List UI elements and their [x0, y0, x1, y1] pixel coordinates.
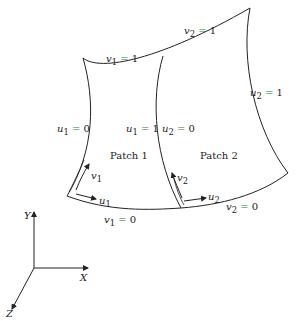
patch2-u-label: u2 — [208, 192, 220, 204]
x-axis-label: X — [80, 273, 87, 283]
patch1-u-arrow — [76, 194, 96, 199]
label-v1-bottom: v1 = 0 — [104, 215, 136, 227]
label-u1-left: u1 = 0 — [57, 124, 90, 136]
label-u2-left: u2 = 0 — [162, 124, 195, 136]
z-axis — [12, 268, 34, 309]
label-u1-right: u1 = 1 — [126, 124, 159, 136]
patch1-label: Patch 1 — [110, 151, 148, 161]
label-v1-top: v1 = 1 — [106, 54, 138, 66]
patch1-u-label: u1 — [99, 196, 111, 208]
patch1-v-label: v1 — [91, 171, 102, 183]
diagram-lines — [0, 0, 297, 321]
patch1-v-arrow — [76, 164, 89, 190]
label-v2-bottom: v2 = 0 — [226, 202, 258, 214]
patch2-label: Patch 2 — [200, 151, 238, 161]
z-axis-label: Z — [6, 309, 13, 319]
patch2-u-arrow — [184, 198, 206, 201]
label-v2-top: v2 = 1 — [184, 26, 216, 38]
patch2-v-label: v2 — [177, 173, 188, 185]
label-u2-right: u2 = 1 — [250, 88, 283, 100]
y-axis-label: Y — [24, 211, 31, 221]
patch-diagram: v1 = 1 v2 = 1 u1 = 0 u1 = 1 u2 = 0 u2 = … — [0, 0, 297, 321]
